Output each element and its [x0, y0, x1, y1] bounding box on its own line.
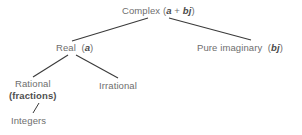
node-complex-label: Complex — [122, 5, 160, 16]
node-real: Real (a) — [56, 42, 93, 54]
edge-rational-to-integers — [33, 103, 39, 113]
node-rational: Rational (fractions) — [9, 78, 57, 101]
node-real-label: Real — [56, 42, 76, 53]
node-complex-paren-close: ) — [191, 5, 194, 16]
node-integers-label: Integers — [11, 115, 46, 126]
node-rational-label: Rational — [9, 78, 57, 90]
node-rational-sublabel: (fractions) — [9, 90, 57, 102]
complex-number-tree-diagram: Complex (a + bj) Real (a) Pure imaginary… — [0, 0, 302, 135]
node-pure-imaginary-paren-close: ) — [280, 42, 283, 53]
edge-complex-to-pure-imaginary — [169, 18, 251, 40]
node-real-paren-close: ) — [90, 42, 93, 53]
edge-real-to-irrational — [76, 55, 118, 78]
node-integers: Integers — [11, 115, 46, 127]
node-irrational-label: Irrational — [99, 80, 137, 91]
edge-complex-to-real — [72, 18, 148, 41]
node-pure-imaginary-var-bj: bj — [271, 42, 280, 53]
node-irrational: Irrational — [99, 80, 137, 92]
edge-real-to-rational — [33, 55, 68, 77]
node-pure-imaginary: Pure imaginary (bj) — [197, 42, 283, 54]
node-complex: Complex (a + bj) — [122, 5, 195, 17]
node-pure-imaginary-label: Pure imaginary — [197, 42, 262, 53]
